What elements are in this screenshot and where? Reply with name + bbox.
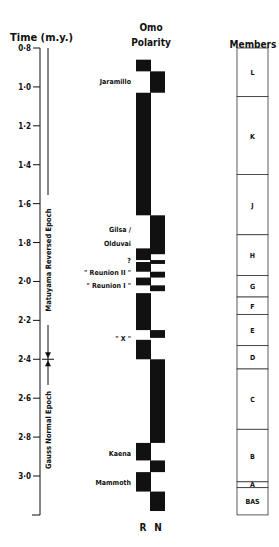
normal-block — [150, 215, 165, 254]
reversed-column-label: R — [140, 522, 147, 533]
axis-tick-label: 1·6 — [18, 200, 31, 209]
event-labels: JaramilloGilsa /Olduvai?" Reunion II "" … — [84, 78, 132, 487]
member-label: E — [250, 327, 254, 335]
axis-tick-label: 2·4 — [18, 355, 31, 364]
time-axis-title: Time (m.y.) — [10, 31, 73, 44]
polarity-title-line1: Omo — [139, 22, 162, 33]
reversed-block — [136, 443, 151, 461]
time-axis: 0·81·01·21·41·61·82·02·22·42·62·83·0 — [18, 44, 40, 515]
epoch-label: Gauss Normal Epoch — [44, 391, 53, 469]
normal-block — [150, 492, 165, 511]
event-label: Gilsa / — [109, 226, 132, 234]
member-label: G — [250, 283, 255, 291]
normal-block — [150, 260, 165, 264]
axis-tick-label: 1·0 — [18, 83, 31, 92]
normal-block — [150, 285, 165, 291]
omo-polarity-diagram: Time (m.y.) Omo Polarity Members 0·81·01… — [0, 0, 279, 547]
epoch-boundary-arrow-down — [45, 360, 51, 366]
members-column: LKJHGFEDCBABAS — [237, 48, 268, 515]
event-label: Mammoth — [96, 479, 131, 487]
epoch-boundary-arrow-up — [45, 352, 51, 358]
normal-column-label: N — [154, 522, 162, 533]
event-label: Jaramillo — [99, 78, 132, 86]
member-label: BAS — [245, 498, 260, 506]
event-label: ? — [127, 257, 131, 265]
reversed-block — [136, 340, 151, 359]
axis-tick-label: 2·2 — [18, 316, 31, 325]
reversed-block — [136, 293, 151, 330]
normal-block — [150, 272, 165, 278]
axis-tick-label: 2·8 — [18, 433, 31, 442]
reversed-block — [136, 93, 151, 216]
member-label: F — [250, 303, 254, 311]
normal-block — [150, 460, 165, 472]
normal-block — [150, 359, 165, 443]
member-label: B — [250, 453, 255, 461]
axis-tick-label: 1·2 — [18, 122, 31, 131]
event-label: Olduvai — [104, 240, 131, 248]
polarity-title-line2: Polarity — [131, 37, 171, 48]
axis-tick-label: 0·8 — [18, 44, 31, 53]
reversed-block — [136, 62, 151, 72]
reversed-block — [136, 278, 151, 286]
member-label: L — [250, 69, 254, 77]
axis-tick-label: 3·0 — [18, 472, 31, 481]
member-label: J — [250, 202, 253, 210]
reversed-block — [136, 262, 151, 272]
epoch-label: Matuyama Reversed Epoch — [44, 208, 53, 311]
member-label: D — [250, 354, 255, 362]
epoch-bar: Matuyama Reversed EpochGauss Normal Epoc… — [42, 48, 54, 475]
member-label: H — [250, 252, 255, 260]
event-label: Kaena — [109, 450, 131, 458]
axis-tick-label: 1·4 — [18, 161, 31, 170]
member-label: C — [250, 396, 255, 404]
polarity-column — [136, 60, 165, 511]
reversed-block — [136, 472, 151, 491]
event-label: " Reunion I " — [86, 282, 131, 290]
normal-block — [150, 71, 165, 92]
axis-tick-label: 2·6 — [18, 394, 31, 403]
normal-block — [150, 330, 165, 338]
axis-tick-label: 1·8 — [18, 239, 31, 248]
axis-tick-label: 2·0 — [18, 277, 31, 286]
event-label: " X " — [115, 335, 131, 343]
event-label: " Reunion II " — [84, 269, 131, 277]
reversed-block — [136, 248, 151, 260]
